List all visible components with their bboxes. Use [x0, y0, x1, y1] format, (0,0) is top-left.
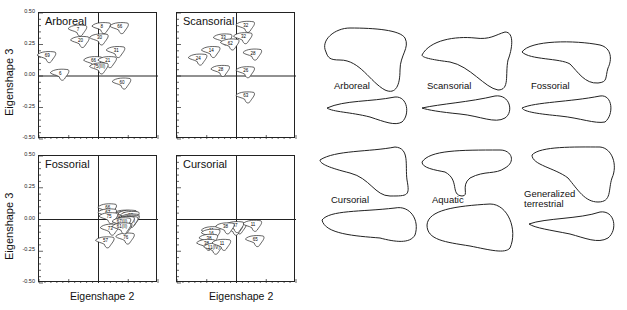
data-point: 76 [116, 233, 135, 244]
svg-text:75: 75 [107, 214, 113, 219]
svg-text:11: 11 [251, 222, 256, 227]
data-point: 8 [92, 23, 111, 34]
svg-text:21: 21 [105, 58, 111, 63]
y-tick-label: 0.25 [11, 183, 35, 189]
svg-text:62: 62 [228, 41, 234, 46]
svg-text:65: 65 [253, 237, 259, 242]
data-point: 32 [236, 21, 255, 32]
outline-label-scansorial: Scansorial [427, 81, 471, 91]
y-tick-label: 0.50 [11, 8, 35, 14]
svg-text:31: 31 [114, 48, 120, 53]
svg-text:32: 32 [241, 34, 247, 39]
scatter-panel-cursorial: 344711381116383811(IV)1165Cursorial [176, 155, 295, 282]
scatter-panel-scansorial: 32323362142428282663Scansorial [176, 12, 295, 138]
data-point: 6 [50, 69, 69, 80]
outline-label-cursorial: Cursorial [331, 195, 369, 205]
svg-text:28: 28 [250, 51, 256, 56]
svg-text:75(III): 75(III) [94, 64, 106, 69]
y-tick-label: 0.50 [11, 151, 35, 157]
y-axis-label-bottom: Eigenshape 3 [3, 193, 15, 260]
svg-text:32: 32 [243, 23, 249, 28]
panel-title: Arboreal [45, 15, 87, 27]
data-point: 28 [243, 49, 262, 60]
svg-text:66: 66 [117, 24, 123, 29]
outline-label-arboreal: Arboreal [334, 81, 370, 91]
panel-title: Scansorial [183, 15, 234, 27]
scatter-panel-fossorial: 5761(II)67(II)66626761(IV)75(II)7575 (II… [38, 155, 157, 282]
data-point: 24 [188, 54, 207, 65]
svg-text:30: 30 [97, 35, 103, 40]
outline-label-aquatic: Aquatic [432, 195, 464, 205]
svg-text:60: 60 [120, 80, 126, 85]
svg-text:11: 11 [220, 241, 225, 246]
data-point: 60 [112, 78, 131, 89]
data-point: 28 [211, 65, 230, 76]
data-point: 31 [106, 47, 125, 58]
y-tick-label: -0.50 [11, 134, 35, 140]
data-point: 20 [70, 36, 89, 47]
outline-label-generalized-terrestrial: Generalized terrestrial [524, 189, 594, 209]
y-tick-label: 0.25 [11, 40, 35, 46]
y-axis-label-top: Eigenshape 3 [3, 49, 15, 116]
data-point: 75(III) [90, 63, 109, 74]
svg-text:69: 69 [45, 53, 51, 58]
svg-text:20: 20 [78, 38, 84, 43]
svg-text:76: 76 [123, 235, 129, 240]
svg-text:26: 26 [243, 68, 249, 73]
svg-text:28: 28 [218, 67, 224, 72]
panel-title: Cursorial [183, 158, 227, 170]
scatter-panel-arboreal: 786620303169662175(III)660Arboreal [38, 12, 157, 138]
data-point: 65 [245, 236, 264, 247]
x-axis-label-left: Eigenshape 2 [70, 290, 134, 302]
svg-text:57: 57 [103, 238, 109, 243]
svg-text:14: 14 [209, 48, 215, 53]
svg-text:66: 66 [91, 58, 97, 63]
data-point: 66 [110, 23, 129, 34]
data-point: 63 [236, 92, 255, 103]
x-axis-label-right: Eigenshape 2 [209, 290, 273, 302]
svg-text:61(II): 61(II) [117, 224, 128, 229]
svg-text:63: 63 [243, 93, 249, 98]
data-point: 30 [90, 34, 109, 45]
svg-text:24: 24 [196, 56, 202, 61]
panel-title: Fossorial [45, 158, 90, 170]
y-tick-label: -0.50 [11, 278, 35, 284]
caption-fragment [0, 302, 627, 310]
svg-text:38: 38 [223, 224, 229, 229]
outline-label-fossorial: Fossorial [531, 81, 570, 91]
